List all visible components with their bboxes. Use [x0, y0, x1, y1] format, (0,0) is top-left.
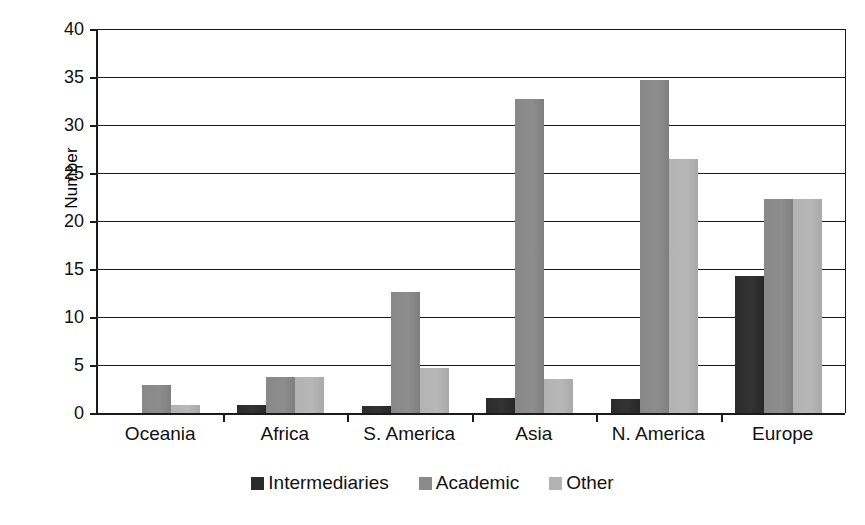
- category-label-asia: Asia: [472, 423, 597, 445]
- bar-academic-s-america: [391, 292, 420, 413]
- dark-gray-swatch: [251, 477, 264, 490]
- bar-intermediaries-s-america: [362, 406, 391, 413]
- bar-other-asia: [544, 379, 573, 413]
- category-label-n-america: N. America: [596, 423, 721, 445]
- bar-other-oceania: [171, 405, 200, 413]
- bar-academic-asia: [515, 99, 544, 413]
- legend-item-intermediaries[interactable]: Intermediaries: [251, 472, 388, 494]
- legend-label-other: Other: [566, 472, 614, 494]
- x-tick-4: [596, 413, 598, 422]
- y-tick-mark-20: [90, 221, 98, 223]
- category-label-europe: Europe: [721, 423, 846, 445]
- gridline-5: [98, 365, 845, 366]
- gridline-20: [98, 221, 845, 222]
- gridline-25: [98, 173, 845, 174]
- gridline-30: [98, 125, 845, 126]
- x-tick-5: [721, 413, 723, 422]
- light-gray-swatch: [549, 477, 562, 490]
- bar-group-europe: [735, 29, 822, 413]
- bar-group-n-america: [611, 29, 698, 413]
- category-label-s-america: S. America: [347, 423, 472, 445]
- gridline-15: [98, 269, 845, 270]
- x-tick-2: [347, 413, 349, 422]
- bar-group-asia: [486, 29, 573, 413]
- bar-other-europe: [793, 199, 822, 413]
- plot-right-border: [845, 29, 846, 413]
- y-tick-mark-15: [90, 269, 98, 271]
- y-tick-mark-25: [90, 173, 98, 175]
- y-tick-label-0: 0: [44, 404, 84, 422]
- plot-area: OceaniaAfricaS. AmericaAsiaN. AmericaEur…: [96, 29, 845, 415]
- bar-other-n-america: [669, 159, 698, 413]
- y-tick-label-35: 35: [44, 68, 84, 86]
- bar-intermediaries-asia: [486, 398, 515, 413]
- y-tick-mark-40: [90, 29, 98, 31]
- bar-academic-oceania: [142, 385, 171, 413]
- y-tick-mark-10: [90, 317, 98, 319]
- bar-intermediaries-europe: [735, 276, 764, 413]
- y-tick-label-15: 15: [44, 260, 84, 278]
- legend-item-academic[interactable]: Academic: [419, 472, 519, 494]
- legend-label-intermediaries: Intermediaries: [268, 472, 388, 494]
- bar-academic-africa: [266, 377, 295, 413]
- category-label-oceania: Oceania: [98, 423, 223, 445]
- category-label-africa: Africa: [223, 423, 348, 445]
- bar-chart: Number OceaniaAfricaS. AmericaAsiaN. Ame…: [0, 0, 865, 525]
- y-tick-label-5: 5: [44, 356, 84, 374]
- y-tick-mark-5: [90, 365, 98, 367]
- bar-group-s-america: [362, 29, 449, 413]
- y-tick-label-25: 25: [44, 164, 84, 182]
- bar-intermediaries-n-america: [611, 399, 640, 413]
- gridline-10: [98, 317, 845, 318]
- y-tick-label-20: 20: [44, 212, 84, 230]
- gridline-35: [98, 77, 845, 78]
- y-tick-label-30: 30: [44, 116, 84, 134]
- bar-intermediaries-africa: [237, 405, 266, 413]
- bar-academic-n-america: [640, 80, 669, 413]
- x-tick-1: [223, 413, 225, 422]
- y-tick-mark-30: [90, 125, 98, 127]
- x-tick-3: [472, 413, 474, 422]
- medium-gray-swatch: [419, 477, 432, 490]
- bar-group-oceania: [113, 29, 200, 413]
- legend-label-academic: Academic: [436, 472, 519, 494]
- bar-other-s-america: [420, 368, 449, 413]
- y-tick-mark-0: [90, 413, 98, 415]
- bar-group-africa: [237, 29, 324, 413]
- chart-legend: IntermediariesAcademicOther: [0, 472, 865, 494]
- y-tick-mark-35: [90, 77, 98, 79]
- bar-academic-europe: [764, 199, 793, 413]
- bar-other-africa: [295, 377, 324, 413]
- legend-item-other[interactable]: Other: [549, 472, 614, 494]
- y-tick-label-10: 10: [44, 308, 84, 326]
- gridline-40: [98, 29, 845, 30]
- y-tick-label-40: 40: [44, 20, 84, 38]
